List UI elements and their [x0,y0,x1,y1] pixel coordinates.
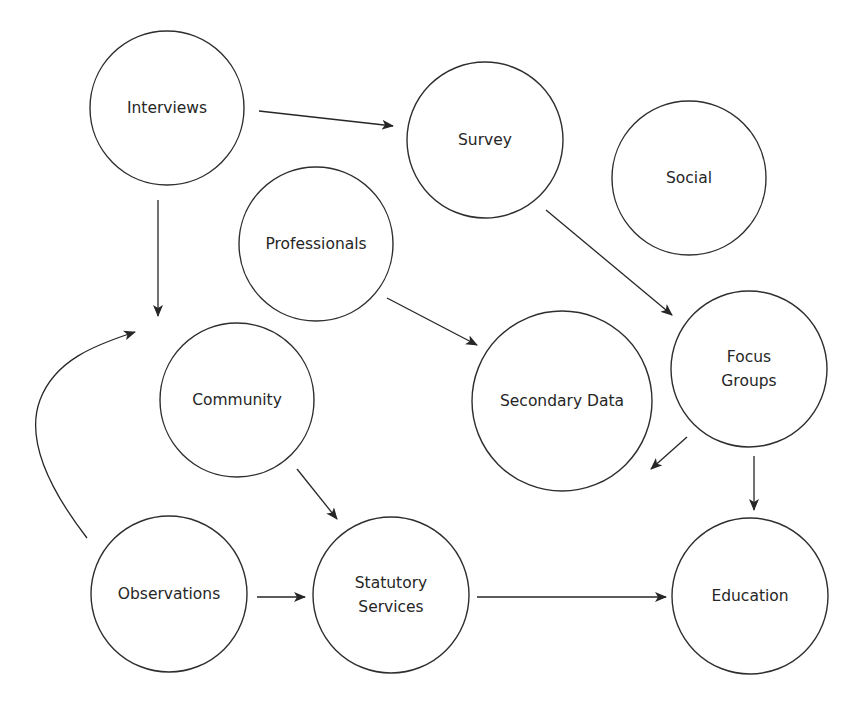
arrow-observations-to-community-area [36,332,135,538]
node-label: Statutory [355,574,427,592]
arrow-interviews-to-survey [259,111,393,126]
node-label: Professionals [265,235,366,253]
arrow-professionals-to-secondary-data [387,298,477,345]
node-circle [313,517,469,673]
node-circle [671,291,827,447]
node-community: Community [160,323,314,477]
node-label: Focus [727,348,771,366]
arrow-focus-groups-to-secondary-data [651,437,687,469]
nodes-layer: InterviewsSurveySocialProfessionalsCommu… [90,31,828,674]
node-focus-groups: FocusGroups [671,291,827,447]
node-professionals: Professionals [239,167,393,321]
node-label: Interviews [127,99,207,117]
node-statutory-services: StatutoryServices [313,517,469,673]
node-label: Community [192,391,282,409]
node-secondary-data: Secondary Data [472,311,652,491]
node-label: Services [358,598,423,616]
node-social: Social [612,101,766,255]
node-observations: Observations [91,516,247,672]
node-label: Education [711,587,788,605]
node-label: Social [666,169,712,187]
node-label: Observations [118,585,220,603]
node-survey: Survey [407,62,563,218]
node-label: Survey [458,131,512,149]
concept-diagram: InterviewsSurveySocialProfessionalsCommu… [0,0,865,710]
arrow-community-to-statutory-services [297,469,337,519]
node-label: Groups [721,372,776,390]
node-interviews: Interviews [90,31,244,185]
node-label: Secondary Data [500,392,624,410]
node-education: Education [672,518,828,674]
